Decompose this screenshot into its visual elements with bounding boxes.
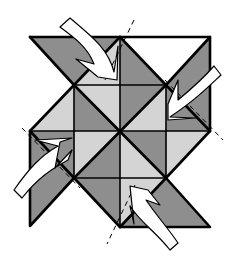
pinwheel-fold-diagram: [0, 0, 235, 261]
